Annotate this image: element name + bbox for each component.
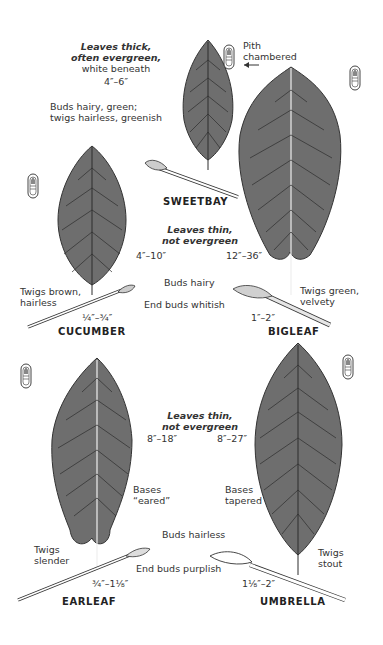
bigleaf-bud-size: 1″–2″	[251, 312, 275, 323]
umbrella-leaf	[255, 343, 342, 575]
umbrella-base-note: Bases tapered	[225, 484, 262, 506]
species-name-bigleaf: BIGLEAF	[268, 326, 320, 337]
cucumber-leaf	[58, 146, 126, 295]
species-name-cucumber: CUCUMBER	[58, 326, 126, 337]
group-end-buds-note-thin-hairy: End buds whitish	[144, 299, 225, 310]
pith-cross-section-icon	[224, 45, 234, 69]
umbrella-twig-note: Twigs stout	[318, 547, 344, 569]
earleaf-leaf	[52, 358, 132, 568]
bigleaf-twig-note: Twigs green, velvety	[300, 285, 359, 307]
cucumber-twig-note: Twigs brown, hairless	[20, 286, 81, 308]
umbrella-leaf-size: 8″–27″	[217, 433, 247, 444]
pith-chambered-label: Pith chambered	[243, 40, 297, 62]
sweetbay-twig	[145, 160, 238, 197]
pith-cross-section-icon	[343, 355, 353, 379]
group-heading-evergreen: Leaves thick, often evergreen,	[56, 41, 176, 63]
group-heading-thin-hairy: Leaves thin, not evergreen	[150, 224, 250, 246]
pith-cross-section-icon	[28, 174, 38, 198]
earleaf-base-note: Bases “eared”	[133, 484, 170, 506]
species-name-sweetbay: SWEETBAY	[163, 196, 228, 207]
cucumber-leaf-size: 4″–10″	[136, 250, 166, 261]
pith-cross-section-icon	[21, 364, 31, 388]
species-name-earleaf: EARLEAF	[62, 596, 116, 607]
earleaf-twig-note: Twigs slender	[34, 544, 69, 566]
group-buds-note-thin-hairless: Buds hairless	[162, 529, 225, 540]
group-end-buds-note-thin-hairless: End buds purplish	[136, 563, 221, 574]
species-name-umbrella: UMBRELLA	[260, 596, 326, 607]
earleaf-bud-size: ¾″–1⅛″	[92, 578, 128, 589]
group-heading-thin-hairless: Leaves thin, not evergreen	[150, 410, 250, 432]
cucumber-bud-size: ¼″–¾″	[82, 312, 112, 323]
sweetbay-leaf-size: 4″–6″	[56, 76, 176, 87]
umbrella-bud-size: 1⅛″–2″	[242, 578, 275, 589]
earleaf-leaf-size: 8″–18″	[147, 433, 177, 444]
group-buds-note-thin-hairy: Buds hairy	[164, 277, 215, 288]
bigleaf-leaf-size: 12″–36″	[226, 250, 262, 261]
group-subheading-evergreen: white beneath	[56, 63, 176, 74]
pith-cross-section-icon	[350, 66, 360, 90]
group-buds-note-evergreen: Buds hairy, green; twigs hairless, green…	[50, 101, 162, 123]
